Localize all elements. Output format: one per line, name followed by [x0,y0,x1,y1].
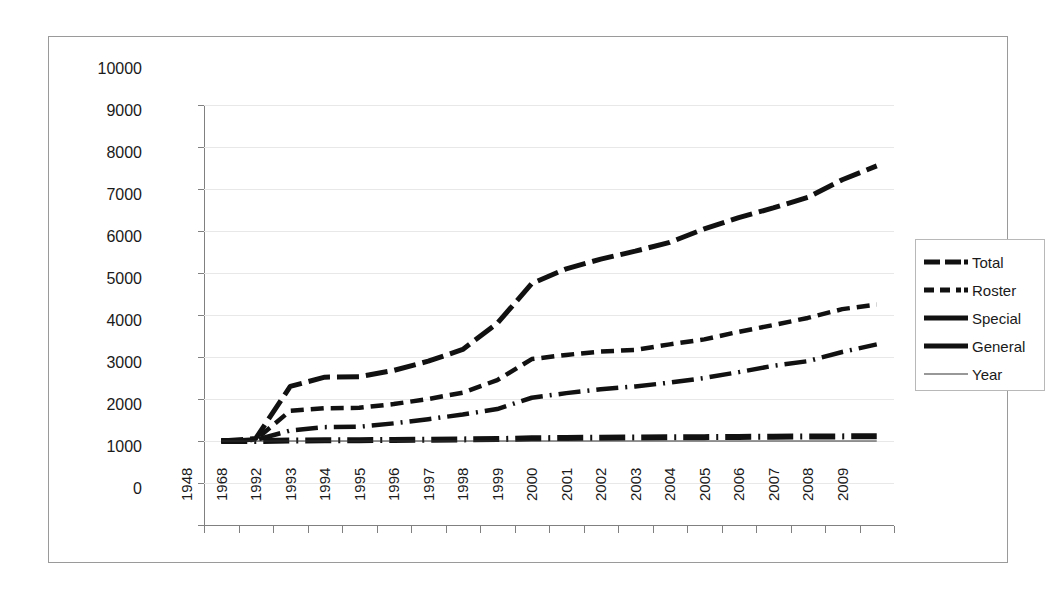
plot-area [204,105,894,525]
legend-item-special[interactable]: Special [924,304,1038,332]
x-axis-tick [618,526,619,533]
x-axis-tick [377,526,378,533]
legend-swatch-general-icon [924,339,968,353]
x-axis-tick [860,526,861,533]
legend-label-total: Total [972,254,1004,271]
x-axis-tick-label: 2008 [800,468,815,501]
legend-label-special: Special [972,310,1021,327]
legend-item-total[interactable]: Total [924,248,1038,276]
x-axis-tick-label: 2006 [731,468,746,501]
chart-legend: Total Roster Special General Year [915,239,1045,391]
series-line-total [221,166,877,441]
x-axis-tick [584,526,585,533]
x-axis-tick [825,526,826,533]
x-axis-tick-label: 1997 [421,468,436,501]
x-axis-tick [722,526,723,533]
y-axis-tick-label: 7000 [49,187,142,203]
x-axis-tick-label: 2009 [835,468,850,501]
x-axis-tick-label: 1994 [317,468,332,501]
x-axis-tick-label: 1998 [455,468,470,501]
x-axis-tick-label: 2000 [524,468,539,501]
x-axis-tick-label: 2005 [697,468,712,501]
y-axis-tick-label: 9000 [49,103,142,119]
series-line-general [221,436,877,441]
y-axis-tick-label: 5000 [49,271,142,287]
x-axis-tick-label: 1948 [179,468,194,501]
series-line-roster [221,305,877,442]
legend-label-year: Year [972,366,1002,383]
x-axis-tick-label: 2001 [559,468,574,501]
x-axis-tick [204,526,205,533]
x-axis-tick [756,526,757,533]
x-axis-tick [791,526,792,533]
x-axis-tick [342,526,343,533]
x-axis-tick-label: 1995 [352,468,367,501]
legend-swatch-roster-icon [924,283,968,297]
x-axis-tick-label: 2004 [662,468,677,501]
x-axis-tick-label: 2007 [766,468,781,501]
x-axis-tick [687,526,688,533]
legend-label-general: General [972,338,1025,355]
legend-item-roster[interactable]: Roster [924,276,1038,304]
y-axis-tick-label: 10000 [49,61,142,77]
x-axis-tick [446,526,447,533]
x-axis-tick [549,526,550,533]
x-axis-tick [239,526,240,533]
x-axis-tick-label: 1968 [214,468,229,501]
x-axis-tick [273,526,274,533]
y-axis-tick-label: 3000 [49,355,142,371]
x-axis-tick [480,526,481,533]
legend-item-general[interactable]: General [924,332,1038,360]
y-axis-tick-label: 8000 [49,145,142,161]
x-axis-tick-label: 2003 [628,468,643,501]
legend-label-roster: Roster [972,282,1016,299]
x-axis-tick [515,526,516,533]
y-axis-tick-label: 4000 [49,313,142,329]
x-axis-tick-label: 2002 [593,468,608,501]
y-axis-tick-label: 0 [49,481,142,497]
y-axis-tick-label: 6000 [49,229,142,245]
x-axis-tick [411,526,412,533]
y-axis-tick-label: 2000 [49,397,142,413]
x-axis-tick-label: 1993 [283,468,298,501]
series-layer [204,105,894,525]
legend-swatch-special-icon [924,311,968,325]
x-axis-tick [653,526,654,533]
x-axis-tick [894,526,895,533]
legend-swatch-total-icon [924,255,968,269]
x-axis-tick-label: 1992 [248,468,263,501]
x-axis-tick-label: 1999 [490,468,505,501]
legend-item-year[interactable]: Year [924,360,1038,388]
x-axis-tick [308,526,309,533]
chart-frame: 0100020003000400050006000700080009000100… [48,36,1008,563]
x-axis-tick-label: 1996 [386,468,401,501]
y-axis-tick-label: 1000 [49,439,142,455]
legend-swatch-year-icon [924,367,968,381]
